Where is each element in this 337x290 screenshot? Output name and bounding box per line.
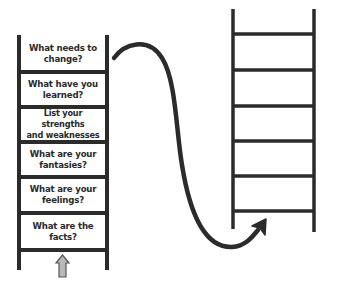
curved-arrow-icon bbox=[114, 44, 266, 247]
step-label-what-are-the-facts: What are the facts? bbox=[22, 215, 104, 248]
step-label-what-needs-to-change: What needs to change? bbox=[22, 37, 104, 70]
step-label-what-are-your-feelings: What are your feelings? bbox=[22, 179, 104, 211]
step-label-what-are-your-fantasies: What are your fantasies? bbox=[22, 144, 104, 175]
step-label-strengths-weaknesses: List your strengths and weaknesses bbox=[22, 109, 104, 140]
right-ladder bbox=[233, 9, 314, 232]
step-label-what-have-you-learned: What have you learned? bbox=[22, 74, 104, 105]
up-arrow-icon bbox=[56, 255, 69, 277]
